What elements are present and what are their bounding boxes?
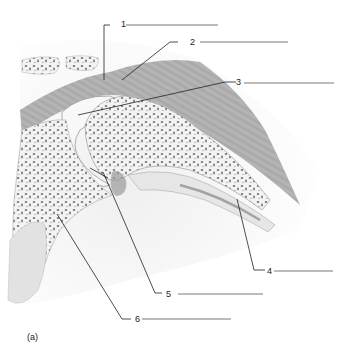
- label-number-1: 1: [121, 19, 126, 29]
- figure-caption: (a): [27, 332, 38, 342]
- clavicle-fragment: [22, 57, 59, 74]
- label-number-4: 4: [267, 266, 272, 276]
- label-number-5: 5: [166, 289, 171, 299]
- label-number-2: 2: [190, 37, 195, 47]
- label-number-6: 6: [135, 314, 140, 324]
- label-number-3: 3: [236, 77, 241, 87]
- anatomy-illustration: [0, 0, 350, 351]
- acromion-fragment: [66, 56, 98, 71]
- diagram-stage: 1 2 3 4 5 6 (a): [0, 0, 350, 351]
